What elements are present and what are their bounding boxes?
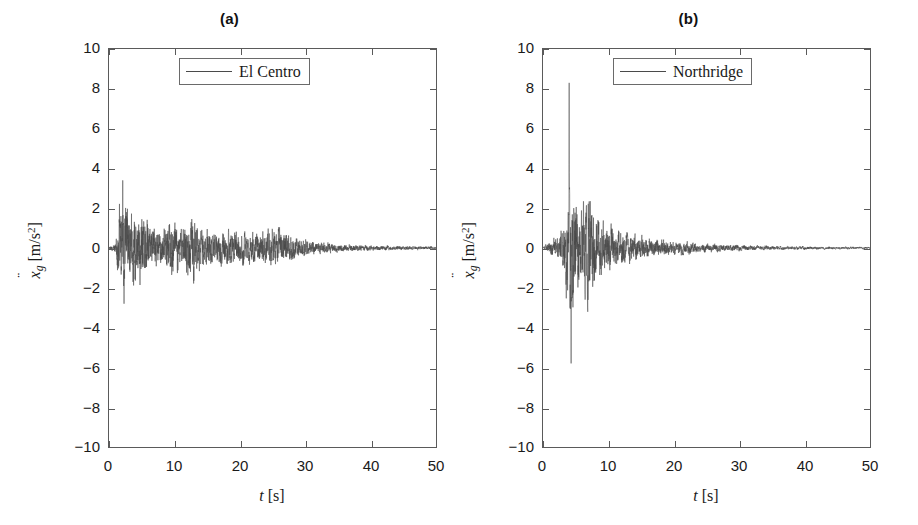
y-tick-mark-right (864, 169, 870, 170)
x-tick-label: 0 (88, 458, 128, 473)
y-tick-mark-right (864, 89, 870, 90)
y-tick-mark (109, 409, 115, 410)
y-tick-label: 0 (54, 240, 100, 255)
x-unit: [s] (268, 487, 285, 504)
x-tick-mark (109, 441, 110, 447)
y-tick-label: 8 (488, 80, 534, 95)
y-tick-mark-right (864, 249, 870, 250)
legend-label-northridge: Northridge (673, 63, 743, 81)
y-tick-mark-right (430, 409, 436, 410)
x-unit: [s] (702, 487, 719, 504)
x-tick-mark (543, 441, 544, 447)
panel-a-title: (a) (0, 10, 459, 27)
y-tick-mark-right (864, 409, 870, 410)
y-unit-exponent: 2 (25, 228, 37, 234)
x-tick-mark-top (175, 49, 176, 55)
panel-a-waveform-svg (109, 49, 436, 447)
legend-line-sample (620, 71, 666, 72)
panel-a-legend[interactable]: El Centro (179, 58, 310, 85)
y-unit-close: ] (460, 222, 477, 227)
x-tick-mark-top (306, 49, 307, 55)
y-unit-exponent: 2 (459, 228, 471, 234)
y-tick-mark (543, 289, 549, 290)
y-tick-label: 8 (54, 80, 100, 95)
x-tick-mark (806, 441, 807, 447)
panel-b: (b) xg [m/s2] 1086420−2−4−6−8−10 0102030… (459, 0, 918, 525)
panel-a: (a) xg [m/s2] 1086420−2−4−6−8−10 0102030… (0, 0, 459, 525)
y-tick-label: 6 (54, 120, 100, 135)
panel-b-waveform-svg (543, 49, 870, 447)
y-tick-label: 10 (54, 40, 100, 55)
x-symbol: t (693, 487, 697, 504)
y-tick-mark-right (864, 329, 870, 330)
y-tick-label: −2 (54, 280, 100, 295)
x-tick-mark (241, 441, 242, 447)
x-tick-label: 50 (416, 458, 456, 473)
legend-label-el-centro: El Centro (239, 63, 301, 81)
y-tick-mark-right (430, 89, 436, 90)
x-tick-mark (675, 441, 676, 447)
y-tick-mark-right (430, 329, 436, 330)
panel-a-x-axis-title: t [s] (192, 487, 352, 505)
x-tick-mark (175, 441, 176, 447)
x-tick-label: 40 (785, 458, 825, 473)
y-tick-mark (109, 89, 115, 90)
panel-a-plot-area[interactable] (108, 48, 437, 448)
y-tick-mark-right (430, 49, 436, 50)
y-tick-label: 4 (488, 160, 534, 175)
x-tick-label: 40 (351, 458, 391, 473)
x-tick-mark-top (109, 49, 110, 55)
x-tick-mark-top (241, 49, 242, 55)
y-symbol: x (460, 271, 478, 278)
y-tick-label: 4 (54, 160, 100, 175)
panel-a-y-axis-title: xg [m/s2] (25, 150, 46, 350)
panel-b-plot-area[interactable] (542, 48, 871, 448)
y-tick-mark (543, 129, 549, 130)
y-tick-label: −8 (488, 400, 534, 415)
legend-line-sample (186, 71, 232, 72)
x-tick-label: 20 (220, 458, 260, 473)
panel-b-x-axis-title: t [s] (626, 487, 786, 505)
x-tick-label: 30 (719, 458, 759, 473)
x-symbol: t (259, 487, 263, 504)
y-tick-mark (109, 209, 115, 210)
x-tick-mark (740, 441, 741, 447)
y-tick-mark (109, 289, 115, 290)
y-tick-mark-right (430, 289, 436, 290)
y-tick-label: −4 (488, 320, 534, 335)
y-tick-mark (109, 169, 115, 170)
y-tick-label: −10 (488, 439, 534, 454)
y-tick-label: −6 (54, 360, 100, 375)
x-tick-label: 0 (522, 458, 562, 473)
y-tick-mark (109, 129, 115, 130)
x-tick-mark-top (740, 49, 741, 55)
y-tick-mark (543, 329, 549, 330)
x-tick-label: 10 (588, 458, 628, 473)
y-tick-label: −6 (488, 360, 534, 375)
y-tick-label: −2 (488, 280, 534, 295)
y-tick-label: 2 (54, 200, 100, 215)
y-tick-label: 6 (488, 120, 534, 135)
y-tick-mark-right (864, 369, 870, 370)
x-tick-label: 30 (285, 458, 325, 473)
x-tick-mark (372, 441, 373, 447)
y-tick-mark-right (430, 169, 436, 170)
y-tick-label: 0 (488, 240, 534, 255)
y-tick-mark-right (864, 49, 870, 50)
y-tick-label: 2 (488, 200, 534, 215)
x-tick-mark (306, 441, 307, 447)
y-tick-mark (543, 89, 549, 90)
waveform-northridge (543, 83, 870, 364)
x-tick-mark (609, 441, 610, 447)
panel-b-y-axis-title: xg [m/s2] (459, 150, 480, 350)
x-tick-mark-top (675, 49, 676, 55)
y-tick-mark (109, 329, 115, 330)
panel-b-legend[interactable]: Northridge (613, 58, 752, 85)
x-tick-mark-top (609, 49, 610, 55)
y-tick-mark-right (864, 209, 870, 210)
y-tick-mark (543, 209, 549, 210)
panel-b-title: (b) (459, 10, 918, 27)
y-tick-label: 10 (488, 40, 534, 55)
y-symbol: x (26, 271, 44, 278)
y-tick-mark (543, 369, 549, 370)
